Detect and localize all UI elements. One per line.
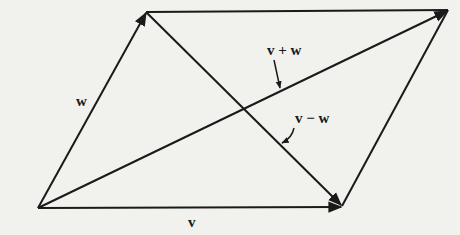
label-v: v [188, 214, 196, 230]
label-w: w [76, 93, 87, 109]
vector-v [38, 207, 341, 208]
label-v-minus-w: v − w [295, 110, 330, 126]
vector-w [38, 13, 146, 208]
edge-top [146, 10, 448, 12]
leader-arrow-sum [274, 60, 280, 88]
edge-right [342, 10, 448, 206]
vector-v-minus-w [146, 12, 341, 205]
vector-v-plus-w [38, 11, 447, 208]
leader-arrow-diff [282, 128, 294, 143]
vector-diagram: w v v + w v − w [0, 0, 460, 235]
parallelogram-figure: w v v + w v − w [0, 0, 460, 235]
label-v-plus-w: v + w [267, 42, 302, 58]
